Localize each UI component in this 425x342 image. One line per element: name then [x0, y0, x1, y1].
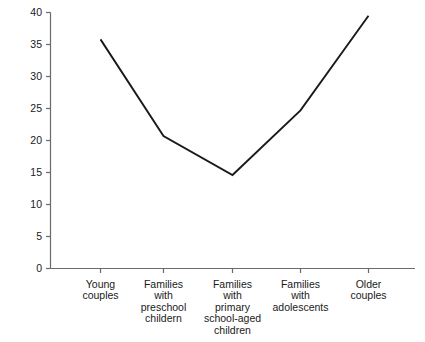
x-axis-tick-label: Families with primary school-aged childr…	[204, 279, 261, 337]
y-axis-ticks	[46, 13, 51, 269]
chart-figure: 0510152025303540 Young couplesFamilies w…	[0, 0, 425, 342]
y-axis-tick-label: 10	[18, 199, 42, 210]
y-axis-tick-label: 35	[18, 39, 42, 50]
x-axis-tick-label: Families with preschool childern	[141, 279, 187, 325]
x-axis-ticks	[101, 269, 369, 274]
chart-axes	[51, 13, 416, 269]
x-axis-tick-label: Young couples	[82, 279, 118, 302]
y-axis-tick-label: 15	[18, 167, 42, 178]
y-axis-tick-label: 20	[18, 135, 42, 146]
x-axis-tick-label: Families with adolescents	[272, 279, 328, 314]
y-axis-tick-label: 30	[18, 71, 42, 82]
x-axis-tick-label: Older couples	[350, 279, 386, 302]
y-axis-tick-label: 25	[18, 103, 42, 114]
y-axis-tick-label: 0	[18, 263, 42, 274]
data-series-line	[101, 16, 369, 175]
y-axis-tick-label: 5	[18, 231, 42, 242]
y-axis-tick-label: 40	[18, 7, 42, 18]
